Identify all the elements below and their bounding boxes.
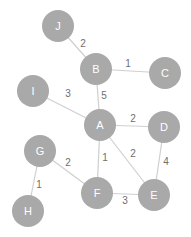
node-label: E xyxy=(150,189,157,201)
edge-weight-f-e: 3 xyxy=(122,195,128,206)
edge-weight-j-b: 2 xyxy=(80,38,86,49)
nodes-layer: JBCIADGFEH xyxy=(12,10,181,227)
edge-weight-a-f: 1 xyxy=(102,152,108,163)
node-label: G xyxy=(36,145,45,157)
node-label: B xyxy=(92,63,99,75)
edge-weight-d-e: 4 xyxy=(163,156,169,167)
node-h: H xyxy=(12,195,44,227)
node-e: E xyxy=(138,179,170,211)
node-label: H xyxy=(24,205,32,217)
node-d: D xyxy=(148,111,180,143)
node-i: I xyxy=(17,75,49,107)
edge-weight-b-c: 1 xyxy=(125,58,131,69)
edge-weight-g-f: 2 xyxy=(65,157,71,168)
node-label: D xyxy=(160,121,168,133)
edge-weight-b-a: 5 xyxy=(101,90,107,101)
node-g: G xyxy=(24,135,56,167)
node-label: A xyxy=(96,119,104,131)
node-a: A xyxy=(84,109,116,141)
edge-weight-i-a: 3 xyxy=(65,88,71,99)
node-f: F xyxy=(81,177,113,209)
node-b: B xyxy=(80,53,112,85)
edge-weight-a-e: 2 xyxy=(130,148,136,159)
node-label: J xyxy=(55,20,61,32)
edge-weight-g-h: 1 xyxy=(36,179,42,190)
edge-weight-a-d: 2 xyxy=(130,113,136,124)
node-j: J xyxy=(42,10,74,42)
node-label: C xyxy=(161,67,169,79)
node-label: I xyxy=(31,85,34,97)
graph-diagram: 21532124213 JBCIADGFEH xyxy=(0,0,191,237)
node-label: F xyxy=(94,187,101,199)
node-c: C xyxy=(149,57,181,89)
